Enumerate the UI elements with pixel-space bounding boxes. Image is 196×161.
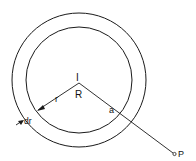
center-label: I [76,72,79,83]
distance-line [79,83,173,153]
point-p-marker [173,152,176,155]
point-label: P [178,149,184,159]
region-label: R [75,89,82,100]
thickness-label: dr [24,116,32,126]
radius-line [38,83,79,110]
distance-label: a [109,105,114,115]
inner-circle [26,27,132,133]
outer-circle [12,13,146,147]
ring-diagram: I R r a dr P [0,0,196,161]
radius-label: r [55,94,58,104]
